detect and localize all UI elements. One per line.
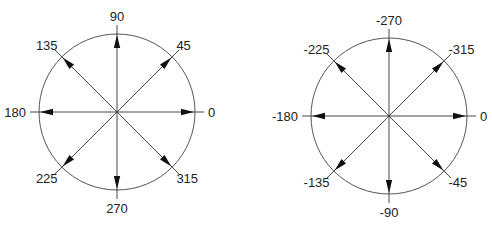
angle-label: 315 [176,171,198,186]
arrowhead-icon [312,113,325,119]
angle-label: 270 [106,201,128,216]
angle-label: 0 [208,105,215,120]
angle-label: -45 [448,175,467,190]
arrowhead-icon [386,39,392,52]
angle-label: 90 [110,9,124,24]
arrowhead-icon [114,176,120,189]
arrowhead-icon [114,35,120,48]
angle-label: 225 [36,171,58,186]
angle-label: -180 [272,109,298,124]
angle-label: -270 [376,13,402,28]
angle-label: 135 [36,38,58,53]
positive-angles-diagram: 04590135180225270315 [4,9,215,216]
angle-label: -135 [304,175,330,190]
arrowhead-icon [386,180,392,193]
arrowhead-icon [181,109,194,115]
angle-label: 180 [4,105,26,120]
angle-diagrams: 045901351802252703150-315-270-225-180-13… [0,0,492,228]
arrowhead-icon [40,109,53,115]
angle-label: -315 [448,42,474,57]
angle-label: 45 [176,38,190,53]
arrowhead-icon [453,113,466,119]
negative-angles-diagram: 0-315-270-225-180-135-90-45 [272,13,487,220]
angle-label: -90 [380,205,399,220]
angle-label: 0 [480,109,487,124]
angle-label: -225 [304,42,330,57]
